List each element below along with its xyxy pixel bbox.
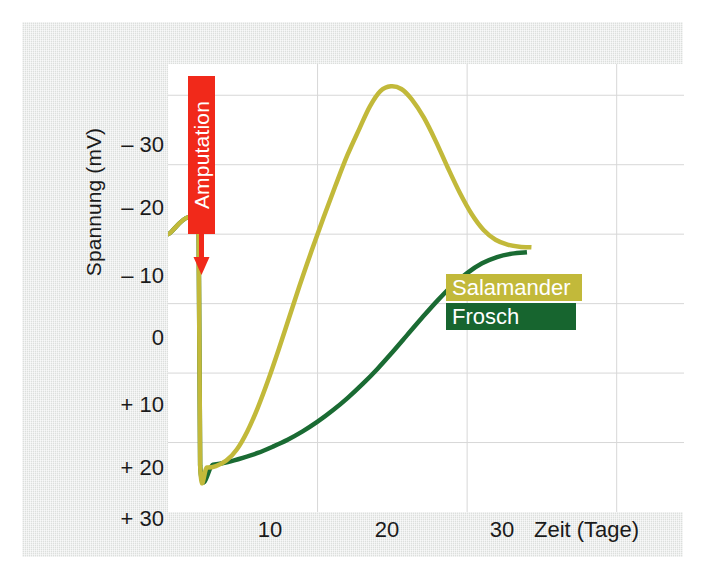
x-tick-label: 20 [357,517,417,543]
figure-chart-spannung-zeit: Spannung (mV) – 30 – 20 – 10 0 + 10 + 20… [0,0,705,579]
figure-panel-background: Spannung (mV) – 30 – 20 – 10 0 + 10 + 20… [22,22,683,557]
legend-label-salamander: Salamander [452,277,571,299]
plot-area [168,64,684,512]
x-axis-title: Zeit (Tage) [534,517,639,543]
legend-label-frosch: Frosch [452,306,519,328]
amputation-label-text: Amputation [190,101,214,209]
legend-item-frosch[interactable]: Frosch [446,303,576,330]
gridlines [168,64,684,512]
x-tick-label: 10 [240,517,300,543]
plot-svg [168,64,684,512]
amputation-arrow-icon [188,232,215,276]
x-tick-label: 30 [472,517,532,543]
legend-item-salamander[interactable]: Salamander [446,274,582,301]
amputation-label-box: Amputation [188,76,215,234]
